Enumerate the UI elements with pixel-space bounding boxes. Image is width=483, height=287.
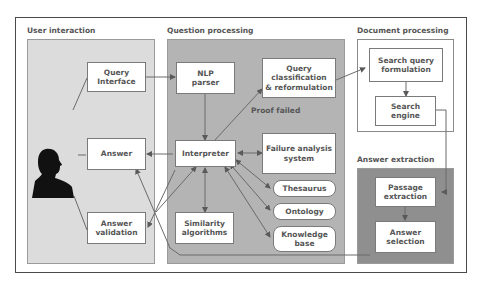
passage-extraction-node: Passage extraction bbox=[375, 177, 436, 207]
person-silhouette-icon bbox=[32, 148, 76, 198]
similarity-algorithms-node: Similarity algorithms bbox=[175, 212, 234, 244]
ontology-node: Ontology bbox=[273, 203, 336, 220]
interpreter-node: Interpreter bbox=[175, 140, 236, 167]
proof-failed-label: Proof failed bbox=[251, 106, 300, 115]
thesaurus-node: Thesaurus bbox=[273, 180, 336, 197]
failure-analysis-node: Failure analysis system bbox=[262, 133, 336, 174]
section-title-question-processing: Question processing bbox=[167, 26, 253, 35]
answer-node: Answer bbox=[87, 138, 146, 170]
knowledge-base-node: Knowledge base bbox=[273, 226, 336, 252]
answer-validation-node: Answer validation bbox=[87, 212, 146, 244]
section-title-document-processing: Document processing bbox=[357, 26, 449, 35]
answer-selection-node: Answer selection bbox=[375, 221, 436, 253]
query-classification-node: Query classification & reformulation bbox=[262, 58, 336, 98]
query-interface-node: Query Interface bbox=[87, 62, 146, 92]
search-engine-node: Search engine bbox=[375, 96, 436, 126]
section-title-answer-extraction: Answer extraction bbox=[357, 155, 434, 164]
nlp-parser-node: NLP parser bbox=[176, 62, 235, 94]
search-query-formulation-node: Search query formulation bbox=[369, 48, 443, 82]
section-title-user-interaction: User interaction bbox=[27, 26, 95, 35]
